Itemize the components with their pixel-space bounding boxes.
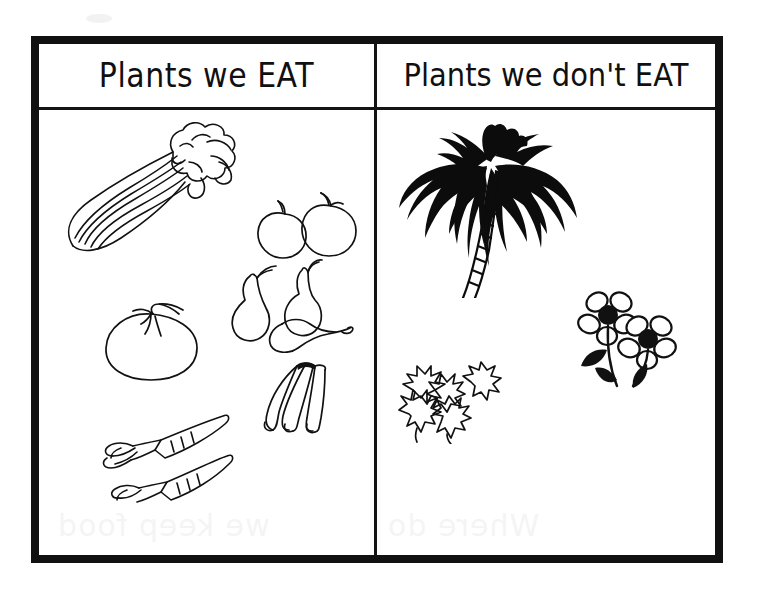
holly-leaves-icon — [393, 360, 503, 444]
palm-tree-icon — [399, 112, 579, 298]
column-title-eat: Plants we EAT — [99, 59, 314, 93]
bleed-through-right: Where do — [387, 508, 539, 543]
column-header-dont-eat: Plants we don't EAT — [377, 44, 715, 110]
column-plants-we-eat: Plants we EAT — [39, 44, 374, 555]
paper-speckle — [86, 14, 112, 23]
column-body-dont-eat: Where do — [377, 110, 715, 555]
pears-icon — [224, 258, 354, 353]
bananas-icon — [257, 358, 369, 440]
carrots-icon — [55, 408, 245, 503]
bleed-through-left: we keep food — [57, 508, 270, 543]
worksheet-poster: Plants we EAT — [0, 0, 758, 604]
tomato-icon — [101, 300, 205, 384]
column-plants-we-dont-eat: Plants we don't EAT — [374, 44, 715, 555]
poster-frame: Plants we EAT — [31, 36, 723, 563]
column-body-eat: we keep food — [39, 110, 374, 555]
celery-icon — [61, 118, 246, 258]
column-title-dont-eat: Plants we don't EAT — [404, 59, 689, 91]
flowers-icon — [577, 288, 685, 390]
apples-icon — [255, 192, 363, 264]
column-header-eat: Plants we EAT — [39, 44, 374, 110]
poster-board: Plants we EAT — [39, 44, 715, 555]
